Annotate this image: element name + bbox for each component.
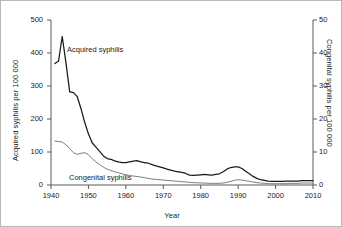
y-tick-label-left: 0 (19, 180, 43, 189)
chart-figure: Acquired syphilis per 100 000 Congenital… (1, 1, 341, 226)
x-tick-label: 2010 (298, 191, 328, 200)
x-tick-label: 1950 (73, 191, 103, 200)
series-label-acquired: Acquired syphilis (67, 45, 123, 54)
x-tick-label: 2000 (261, 191, 291, 200)
y-tick-label-right: 50 (319, 15, 342, 24)
y-tick-label-left: 500 (19, 15, 43, 24)
y-tick-label-right: 0 (319, 180, 342, 189)
x-tick-label: 1980 (186, 191, 216, 200)
y-tick-label-left: 400 (19, 48, 43, 57)
y-tick-label-left: 100 (19, 147, 43, 156)
y-tick-label-left: 300 (19, 81, 43, 90)
series-group (55, 37, 313, 184)
x-tick-label: 1970 (148, 191, 178, 200)
x-tick-label: 1960 (111, 191, 141, 200)
x-tick-label: 1990 (223, 191, 253, 200)
x-tick-label: 1940 (36, 191, 66, 200)
y-tick-label-right: 40 (319, 48, 342, 57)
y-tick-label-right: 20 (319, 114, 342, 123)
y-tick-label-right: 30 (319, 81, 342, 90)
x-axis-label: Year (1, 211, 342, 220)
series-label-congenital: Congenital syphilis (69, 173, 132, 182)
y-tick-label-right: 10 (319, 147, 342, 156)
y-axis-label-left: Acquired syphilis per 100 000 (11, 60, 20, 161)
y-tick-label-left: 200 (19, 114, 43, 123)
